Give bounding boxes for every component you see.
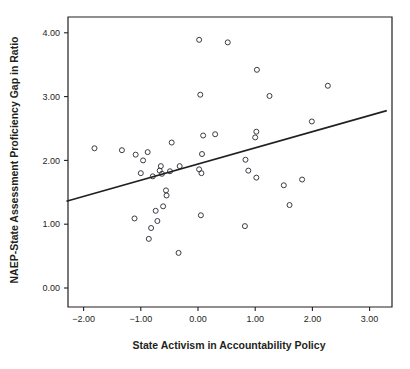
scatter-point: [225, 40, 230, 45]
scatter-point: [198, 213, 203, 218]
plot-canvas: 0.001.002.003.004.00−2.00−1.000.001.002.…: [0, 0, 410, 369]
scatter-point: [146, 236, 151, 241]
scatter-point: [141, 158, 146, 163]
scatter-point: [243, 157, 248, 162]
fit-line: [66, 111, 386, 202]
scatter-point: [132, 216, 137, 221]
y-tick-label: 2.00: [42, 156, 60, 166]
y-tick-label: 4.00: [42, 28, 60, 38]
scatter-point: [169, 140, 174, 145]
scatter-point: [300, 177, 305, 182]
data-points: [92, 37, 330, 255]
scatter-point: [161, 204, 166, 209]
x-axis-title: State Activism in Accountability Policy: [133, 339, 326, 351]
scatter-plot-figure: 0.001.002.003.004.00−2.00−1.000.001.002.…: [0, 0, 410, 369]
plot-frame: [68, 17, 392, 307]
scatter-point: [213, 132, 218, 137]
scatter-point: [155, 219, 160, 224]
scatter-point: [145, 150, 150, 155]
scatter-point: [149, 226, 154, 231]
scatter-point: [119, 148, 124, 153]
scatter-point: [246, 168, 251, 173]
x-tick-label: 2.00: [304, 314, 322, 324]
scatter-point: [325, 83, 330, 88]
scatter-point: [153, 208, 158, 213]
scatter-point: [254, 67, 259, 72]
scatter-point: [163, 188, 168, 193]
scatter-point: [254, 175, 259, 180]
scatter-point: [200, 152, 205, 157]
scatter-point: [138, 171, 143, 176]
scatter-point: [267, 93, 272, 98]
y-axis-title: NAEP-State Assessment Proficiency Gap in…: [8, 36, 20, 283]
scatter-point: [309, 119, 314, 124]
scatter-point: [133, 152, 138, 157]
scatter-point: [242, 224, 247, 229]
y-tick-label: 0.00: [42, 283, 60, 293]
axis-tick-labels: 0.001.002.003.004.00−2.00−1.000.001.002.…: [42, 28, 378, 324]
scatter-point: [254, 129, 259, 134]
axis-ticks: [64, 33, 370, 311]
x-tick-label: 1.00: [246, 314, 264, 324]
scatter-point: [201, 133, 206, 138]
y-tick-label: 3.00: [42, 92, 60, 102]
scatter-point: [164, 193, 169, 198]
x-tick-label: 3.00: [361, 314, 379, 324]
scatter-point: [281, 183, 286, 188]
scatter-point: [197, 37, 202, 42]
regression-line: [66, 111, 386, 202]
scatter-point: [287, 203, 292, 208]
x-tick-label: 0.00: [189, 314, 207, 324]
x-tick-label: −2.00: [72, 314, 95, 324]
scatter-point: [176, 250, 181, 255]
scatter-point: [253, 135, 258, 140]
scatter-point: [199, 171, 204, 176]
x-tick-label: −1.00: [129, 314, 152, 324]
scatter-point: [198, 92, 203, 97]
scatter-point: [92, 146, 97, 151]
y-tick-label: 1.00: [42, 219, 60, 229]
